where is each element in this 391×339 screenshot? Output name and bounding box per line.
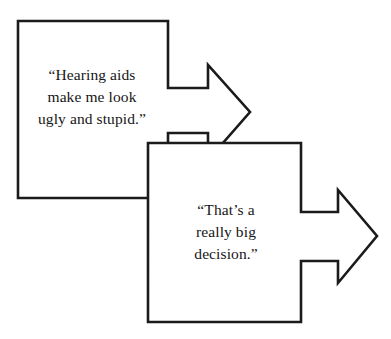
block-arrow-two-shape [148,143,377,322]
diagram-canvas: “Hearing aids make me look ugly and stup… [0,0,391,339]
block-arrow-illustration [0,0,391,339]
